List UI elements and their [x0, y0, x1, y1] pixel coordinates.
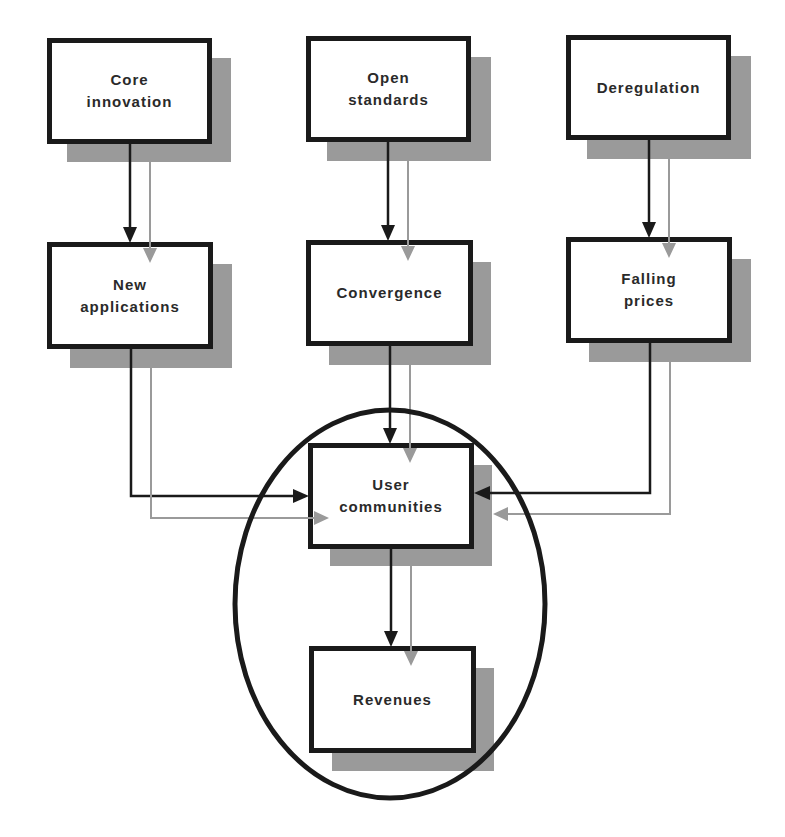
arrow-prices-to-users-secondary — [506, 362, 670, 514]
arrow-newapps-to-users-secondary — [151, 368, 316, 518]
arrowhead-icon — [642, 222, 656, 238]
arrowhead-icon — [383, 428, 397, 444]
arrowhead-icon — [493, 507, 508, 521]
label-convergence: Convergence — [336, 282, 442, 304]
label-revenues: Revenues — [353, 689, 432, 711]
arrow-newapps-to-users-primary — [131, 349, 295, 496]
box-deregulation: Deregulation — [566, 35, 731, 140]
label-core-innovation: Core innovation — [87, 69, 173, 113]
box-open-standards: Open standards — [306, 36, 471, 142]
box-revenues: Revenues — [309, 646, 476, 753]
label-user-communities: User communities — [339, 474, 443, 518]
label-open-standards: Open standards — [348, 67, 429, 111]
box-falling-prices: Falling prices — [566, 237, 732, 343]
flow-diagram: Core innovation Open standards Deregulat… — [0, 0, 785, 837]
arrowhead-icon — [293, 489, 309, 503]
arrowhead-icon — [381, 225, 395, 241]
box-new-applications: New applications — [47, 242, 213, 349]
label-deregulation: Deregulation — [597, 77, 701, 99]
arrow-prices-to-users-primary — [488, 343, 650, 493]
arrowhead-icon — [123, 227, 137, 243]
box-user-communities: User communities — [308, 443, 474, 549]
box-core-innovation: Core innovation — [47, 38, 212, 144]
label-new-applications: New applications — [80, 274, 180, 318]
arrowhead-icon — [384, 631, 398, 647]
label-falling-prices: Falling prices — [621, 268, 676, 312]
box-convergence: Convergence — [306, 240, 473, 346]
